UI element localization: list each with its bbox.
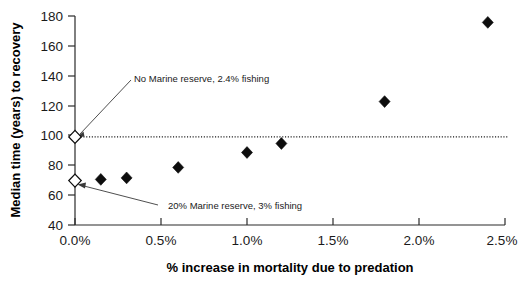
annotation-label-20pct-marine-reserve: 20% Marine reserve, 3% fishing [168, 200, 302, 211]
data-point-filled-diamond [173, 162, 184, 174]
data-point-filled-diamond [276, 138, 287, 150]
data-point-filled-diamond [242, 147, 253, 159]
y-axis-ticks [68, 16, 75, 225]
x-tick-label-4: 2.0% [404, 233, 435, 248]
x-tick-label-3: 1.5% [318, 233, 349, 248]
data-point-filled-diamond [379, 96, 390, 108]
x-axis-ticks [75, 218, 505, 225]
y-tick-label-40: 40 [48, 218, 63, 233]
y-tick-label-160: 160 [40, 39, 63, 54]
data-point-open-diamond [69, 130, 81, 143]
y-axis-title: Median time (years) to recovery [8, 22, 23, 218]
annotation-leader-no-marine-reserve [77, 80, 132, 138]
data-point-filled-diamond [482, 17, 493, 29]
y-tick-label-180: 180 [40, 9, 63, 24]
chart-figure: 180 160 140 120 100 80 60 40 0.0% 0.5% 1… [0, 0, 524, 287]
y-tick-label-100: 100 [40, 128, 63, 143]
y-tick-label-80: 80 [48, 158, 63, 173]
annotation-leader-20pct-marine-reserve [78, 183, 159, 206]
y-tick-label-140: 140 [40, 69, 63, 84]
y-tick-label-60: 60 [48, 188, 63, 203]
x-tick-label-5: 2.5% [487, 233, 518, 248]
x-tick-label-0: 0.0% [60, 233, 91, 248]
y-tick-label-120: 120 [40, 99, 63, 114]
data-point-filled-diamond [95, 174, 106, 186]
x-axis-title: % increase in mortality due to predation [166, 260, 413, 275]
data-point-filled-diamond [121, 172, 132, 184]
scatter-plot-canvas: 180 160 140 120 100 80 60 40 0.0% 0.5% 1… [0, 0, 524, 287]
annotation-label-no-marine-reserve: No Marine reserve, 2.4% fishing [134, 73, 269, 84]
x-tick-label-1: 0.5% [146, 233, 177, 248]
x-tick-label-2: 1.0% [232, 233, 263, 248]
